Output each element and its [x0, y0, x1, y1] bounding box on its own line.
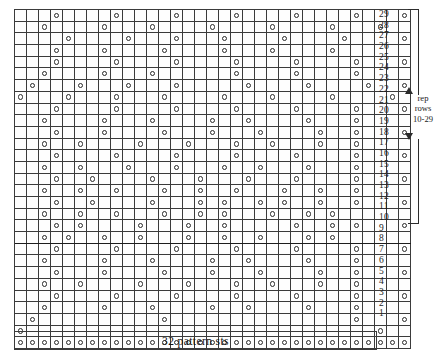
stitch-cell-empty [147, 103, 159, 115]
stitch-cell-empty [279, 173, 291, 185]
stitch-cell-empty [363, 220, 375, 232]
stitch-cell-empty [327, 161, 339, 173]
stitch-cell-yarnover [219, 232, 231, 244]
stitch-cell-empty [339, 10, 351, 21]
stitch-cell-empty [255, 185, 267, 197]
yarn-over-icon [162, 48, 167, 53]
yarn-over-icon [222, 211, 227, 216]
stitch-cell-empty [51, 138, 63, 150]
stitch-cell-empty [207, 103, 219, 115]
stitch-cell-yarnover [99, 255, 111, 267]
stitch-cell-empty [207, 313, 219, 325]
stitch-cell-empty [15, 80, 27, 92]
stitch-row [15, 255, 411, 267]
stitch-cell-yarnover [87, 197, 99, 209]
stitch-row [15, 243, 411, 255]
stitch-cell-yarnover [171, 150, 183, 162]
stitch-cell-empty [363, 91, 375, 103]
stitch-cell-empty [231, 197, 243, 209]
stitch-cell-empty [63, 150, 75, 162]
stitch-row [15, 91, 411, 103]
stitch-cell-empty [243, 208, 255, 220]
stitch-cell-empty [27, 68, 39, 80]
stitch-cell-yarnover [231, 10, 243, 21]
stitch-cell-empty [183, 21, 195, 33]
yarn-over-icon [222, 235, 227, 240]
stitch-cell-empty [99, 91, 111, 103]
yarn-over-icon [114, 59, 119, 64]
stitch-cell-empty [315, 21, 327, 33]
row-number: 9 [379, 223, 405, 234]
stitch-cell-empty [183, 115, 195, 127]
yarn-over-icon [90, 200, 95, 205]
stitch-cell-empty [147, 220, 159, 232]
stitch-cell-empty [99, 138, 111, 150]
stitch-cell-yarnover [111, 208, 123, 220]
stitch-cell-empty [303, 21, 315, 33]
stitch-cell-empty [99, 33, 111, 45]
stitch-cell-yarnover [267, 208, 279, 220]
stitch-cell-empty [315, 56, 327, 68]
stitch-cell-empty [123, 313, 135, 325]
stitch-cell-empty [195, 313, 207, 325]
stitch-cell-yarnover [99, 232, 111, 244]
stitch-cell-empty [339, 68, 351, 80]
stitch-cell-empty [135, 302, 147, 314]
stitch-cell-yarnover [63, 91, 75, 103]
stitch-cell-yarnover [327, 232, 339, 244]
stitch-cell-empty [255, 33, 267, 45]
stitch-cell-yarnover [39, 185, 51, 197]
stitch-cell-yarnover [231, 138, 243, 150]
stitch-cell-empty [123, 126, 135, 138]
yarn-over-icon [114, 211, 119, 216]
stitch-cell-yarnover [351, 173, 363, 185]
yarn-over-icon [42, 165, 47, 170]
stitch-row [15, 45, 411, 57]
yarn-over-icon [186, 223, 191, 228]
stitch-cell-empty [315, 45, 327, 57]
stitch-cell-yarnover [183, 220, 195, 232]
stitch-cell-empty [303, 185, 315, 197]
stitch-cell-yarnover [171, 33, 183, 45]
stitch-cell-yarnover [303, 161, 315, 173]
stitch-cell-empty [279, 45, 291, 57]
stitch-cell-empty [111, 21, 123, 33]
stitch-cell-empty [255, 243, 267, 255]
stitch-cell-yarnover [351, 255, 363, 267]
stitch-cell-empty [111, 278, 123, 290]
stitch-cell-empty [291, 33, 303, 45]
stitch-cell-empty [27, 33, 39, 45]
yarn-over-icon [270, 141, 275, 146]
stitch-cell-empty [123, 21, 135, 33]
stitch-cell-empty [267, 80, 279, 92]
stitch-cell-yarnover [231, 68, 243, 80]
stitch-cell-yarnover [219, 33, 231, 45]
stitch-cell-empty [243, 185, 255, 197]
stitch-cell-empty [363, 232, 375, 244]
stitch-cell-yarnover [243, 173, 255, 185]
stitch-cell-empty [123, 173, 135, 185]
yarn-over-icon [294, 246, 299, 251]
stitch-cell-yarnover [243, 302, 255, 314]
stitch-cell-yarnover [231, 278, 243, 290]
stitch-cell-yarnover [51, 267, 63, 279]
yarn-over-icon [222, 36, 227, 41]
yarn-over-icon [54, 59, 59, 64]
stitch-cell-empty [183, 290, 195, 302]
row-number: 1 [379, 308, 405, 319]
stitch-cell-empty [87, 56, 99, 68]
stitch-cell-yarnover [315, 126, 327, 138]
stitch-cell-empty [123, 243, 135, 255]
stitch-cell-empty [75, 313, 87, 325]
stitch-cell-yarnover [75, 208, 87, 220]
yarn-over-icon [342, 36, 347, 41]
stitch-cell-empty [315, 103, 327, 115]
yarn-over-icon [210, 130, 215, 135]
stitch-cell-empty [219, 10, 231, 21]
yarn-over-icon [78, 141, 83, 146]
yarn-over-icon [18, 94, 23, 99]
yarn-over-icon [102, 24, 107, 29]
stitch-cell-yarnover [351, 150, 363, 162]
yarn-over-icon [114, 153, 119, 158]
stitch-cell-yarnover [267, 91, 279, 103]
